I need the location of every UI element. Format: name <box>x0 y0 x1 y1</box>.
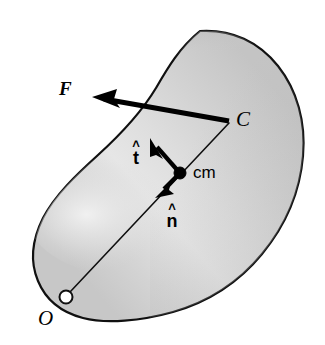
force-label-F: F <box>59 79 72 98</box>
unit-tangent-label: ˄ t <box>128 140 144 167</box>
unit-tangent-letter: t <box>128 149 144 167</box>
unit-normal-label: ˄ n <box>164 203 180 230</box>
center-of-mass-marker <box>174 167 186 179</box>
physics-diagram-figure: F C O cm ˄ t ˄ n <box>0 0 325 345</box>
contact-point-label-C: C <box>236 109 250 130</box>
unit-normal-letter: n <box>164 212 180 230</box>
center-of-mass-label: cm <box>193 164 216 181</box>
hat-accent-icon: ˄ <box>128 140 144 148</box>
origin-point-marker <box>60 291 73 304</box>
origin-label-O: O <box>38 308 53 329</box>
hat-accent-icon: ˄ <box>164 203 180 211</box>
diagram-canvas <box>0 0 325 345</box>
